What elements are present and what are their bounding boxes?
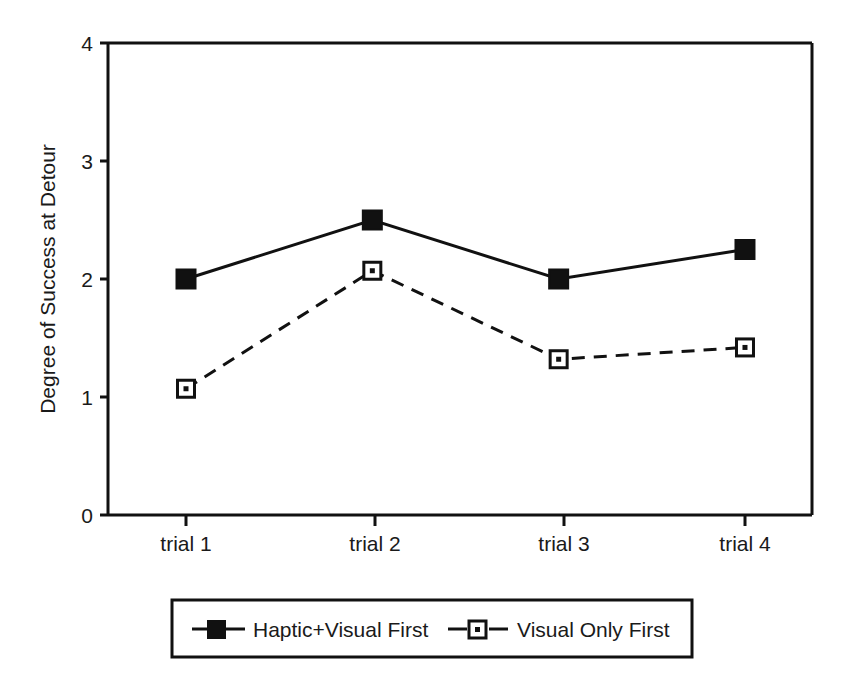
filled-square-marker — [549, 270, 568, 289]
open-square-marker-center — [184, 386, 189, 391]
open-square-icon-center — [475, 627, 480, 632]
plot-frame — [108, 43, 812, 515]
y-tick-label-3: 3 — [81, 150, 93, 173]
x-tick-label-trial-2: trial 2 — [349, 532, 400, 555]
legend-entry-visual-only-first[interactable]: Visual Only First — [448, 618, 670, 641]
open-square-marker-center — [556, 357, 561, 362]
x-tick-label-trial-1: trial 1 — [160, 532, 211, 555]
x-tick-label-trial-4: trial 4 — [719, 532, 771, 555]
legend-label-visual-only-first: Visual Only First — [517, 618, 670, 641]
line-chart: 4 3 2 1 0 Degree of Success at Detour tr… — [0, 0, 854, 690]
y-tick-label-2: 2 — [81, 268, 93, 291]
series-haptic-visual-first — [177, 211, 755, 289]
y-axis-tick-labels: 4 3 2 1 0 — [81, 32, 93, 527]
x-tick-label-trial-3: trial 3 — [538, 532, 589, 555]
legend-label-haptic-visual-first: Haptic+Visual First — [253, 618, 428, 641]
open-square-marker-center — [742, 345, 747, 350]
y-tick-label-1: 1 — [81, 386, 93, 409]
filled-square-marker — [363, 211, 382, 230]
filled-square-marker — [735, 240, 754, 259]
chart-figure: 4 3 2 1 0 Degree of Success at Detour tr… — [0, 0, 854, 690]
x-axis-tick-labels: trial 1 trial 2 trial 3 trial 4 — [160, 532, 771, 555]
series-visual-only-first-line — [186, 271, 745, 389]
series-visual-only-first — [178, 262, 754, 397]
y-axis-title: Degree of Success at Detour — [36, 144, 59, 414]
open-square-marker-center — [370, 268, 375, 273]
filled-square-icon — [208, 621, 225, 638]
y-tick-label-4: 4 — [81, 32, 93, 55]
legend: Haptic+Visual First Visual Only First — [172, 600, 692, 657]
series-haptic-visual-first-line — [186, 220, 745, 279]
y-tick-label-0: 0 — [81, 504, 93, 527]
x-axis-ticks — [186, 515, 745, 526]
filled-square-marker — [177, 270, 196, 289]
series-visual-only-first-markers — [178, 262, 754, 397]
